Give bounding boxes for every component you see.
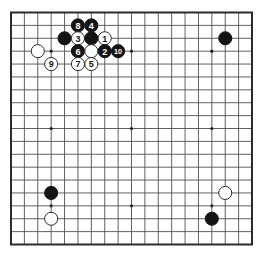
star-point <box>130 204 133 207</box>
white-stone-9 <box>45 58 58 71</box>
white-stone-5 <box>85 58 98 71</box>
white-stone <box>31 45 44 58</box>
go-board: 84316210975 <box>0 0 261 255</box>
star-point <box>50 204 53 207</box>
star-point <box>210 127 213 130</box>
star-point <box>210 50 213 53</box>
white-stone-7 <box>71 58 84 71</box>
white-stone <box>219 186 232 199</box>
star-point <box>50 127 53 130</box>
star-point <box>210 204 213 207</box>
black-stone <box>85 32 98 45</box>
black-stone-8 <box>71 19 84 32</box>
white-stone-1 <box>98 32 111 45</box>
black-stone-6 <box>71 45 84 58</box>
black-stone-10 <box>112 45 125 58</box>
star-point <box>130 50 133 53</box>
black-stone <box>205 212 218 225</box>
star-point <box>50 50 53 53</box>
go-diagram-page: 84316210975 <box>0 0 261 255</box>
black-stone <box>58 32 71 45</box>
black-stone-2 <box>98 45 111 58</box>
black-stone <box>45 186 58 199</box>
white-stone-3 <box>71 32 84 45</box>
white-stone <box>85 45 98 58</box>
black-stone <box>219 32 232 45</box>
star-point <box>130 127 133 130</box>
white-stone <box>45 212 58 225</box>
black-stone-4 <box>85 19 98 32</box>
